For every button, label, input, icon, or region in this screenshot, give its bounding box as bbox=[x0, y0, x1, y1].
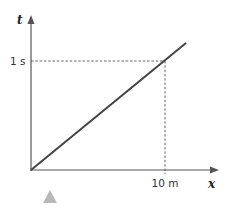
y-axis-label: t bbox=[17, 13, 23, 27]
x-axis-arrow-icon bbox=[210, 167, 219, 174]
distance-time-chart: t 1 s 10 m x bbox=[0, 0, 226, 209]
x-axis-label: x bbox=[207, 177, 216, 191]
data-line bbox=[31, 43, 186, 170]
y-axis-arrow-icon bbox=[28, 15, 35, 24]
y-tick-label: 1 s bbox=[10, 55, 26, 67]
x-tick-label: 10 m bbox=[152, 177, 179, 189]
triangle-up-icon bbox=[43, 190, 57, 203]
